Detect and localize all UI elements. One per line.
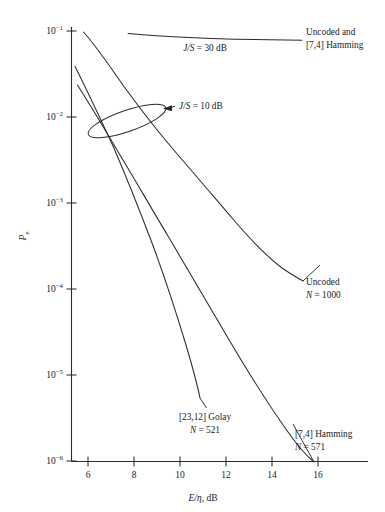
curve-uncoded-n1000 (84, 32, 304, 281)
curve-js30-uncoded-hamming (128, 34, 302, 41)
annotation-js10: J/S = 10 dB (179, 101, 223, 111)
annotation-hamming-n: N = 571 (294, 442, 325, 452)
chart-svg: 10−1 10−2 10−3 10−4 10−5 10−6 (0, 0, 385, 512)
annotation-golay: [23,12] Golay (179, 412, 232, 422)
y-tick-label-5: 10−6 (46, 454, 63, 466)
annotation-hamming: [7,4] Hamming (295, 429, 353, 439)
js10-group-ellipse (85, 98, 169, 145)
x-tick-label-3: 12 (221, 470, 231, 480)
y-tick-label-0: 10−1 (46, 24, 63, 36)
chart-figure: 10−1 10−2 10−3 10−4 10−5 10−6 (0, 0, 385, 512)
x-tick-label-4: 14 (267, 470, 277, 480)
y-tick-label-3: 10−4 (46, 282, 63, 294)
annotation-js30: J/S = 30 dB (183, 43, 227, 53)
annotation-uncoded-and: Uncoded and (306, 27, 356, 37)
y-tick-labels: 10−1 10−2 10−3 10−4 10−5 10−6 (46, 24, 63, 466)
y-axis-title: Pe (18, 232, 30, 242)
axes-group (72, 27, 369, 462)
x-axis-title: E/η, dB (188, 493, 218, 503)
annotation-hamming-top: [7,4] Hamming (306, 40, 364, 50)
annotation-golay-n: N = 521 (189, 425, 220, 435)
y-tick-label-1: 10−2 (46, 110, 63, 122)
x-tick-label-2: 10 (175, 470, 185, 480)
x-tick-label-5: 16 (313, 470, 323, 480)
x-tick-labels: 6 8 10 12 14 16 (86, 470, 323, 480)
annotation-uncoded: Uncoded (306, 277, 340, 287)
x-tick-label-1: 8 (132, 470, 137, 480)
golay-leader-line (200, 398, 207, 408)
annotation-uncoded-n: N = 1000 (305, 290, 341, 300)
y-tick-label-2: 10−3 (46, 196, 63, 208)
x-tick-label-0: 6 (86, 470, 91, 480)
curve-golay-n521 (75, 67, 200, 399)
curve-hamming-n571 (78, 85, 315, 462)
y-tick-label-4: 10−5 (46, 368, 63, 380)
